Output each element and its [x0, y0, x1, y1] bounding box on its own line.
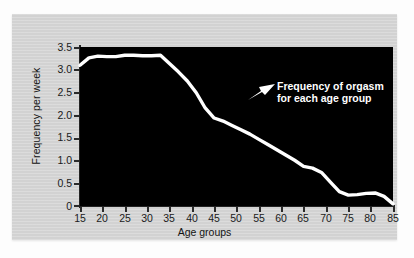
x-tick-label-65: 65 [292, 213, 314, 224]
page-root: Frequency per week 3.5 3.0 2.5 2.0 1.5 1… [0, 0, 414, 258]
x-tick-label-30: 30 [136, 213, 158, 224]
data-series-line [80, 55, 393, 204]
x-tick-label-25: 25 [114, 213, 136, 224]
x-axis-title: Age groups [12, 226, 397, 238]
x-tick-label-85: 85 [382, 213, 404, 224]
y-tick-label-3-0: 3.0 [46, 64, 72, 74]
x-tick-label-40: 40 [181, 213, 203, 224]
y-axis-title: Frequency per week [30, 51, 42, 181]
y-tick-label-1-0: 1.0 [46, 155, 72, 165]
y-tick-label-1-5: 1.5 [46, 132, 72, 142]
x-tick-label-15: 15 [69, 213, 91, 224]
x-tick-label-50: 50 [225, 213, 247, 224]
callout-line-2: for each age group [277, 92, 414, 104]
plot-area: Frequency of orgasm for each age group [80, 47, 393, 206]
x-tick-label-80: 80 [359, 213, 381, 224]
y-tick-label-0: 0 [46, 201, 72, 211]
x-tick-label-70: 70 [315, 213, 337, 224]
figure-card: Frequency per week 3.5 3.0 2.5 2.0 1.5 1… [12, 14, 397, 240]
data-line-chart [80, 47, 393, 206]
series-callout-annotation: Frequency of orgasm for each age group [277, 80, 414, 104]
y-tick-label-3-5: 3.5 [46, 42, 72, 52]
x-tick-label-20: 20 [91, 213, 113, 224]
x-tick-label-75: 75 [337, 213, 359, 224]
x-tick-label-60: 60 [270, 213, 292, 224]
callout-line-1: Frequency of orgasm [277, 80, 414, 92]
x-tick-label-55: 55 [248, 213, 270, 224]
y-tick-label-0-5: 0.5 [46, 178, 72, 188]
y-tick-label-2-0: 2.0 [46, 110, 72, 120]
x-tick-label-45: 45 [203, 213, 225, 224]
y-tick-label-2-5: 2.5 [46, 87, 72, 97]
x-tick-label-35: 35 [158, 213, 180, 224]
